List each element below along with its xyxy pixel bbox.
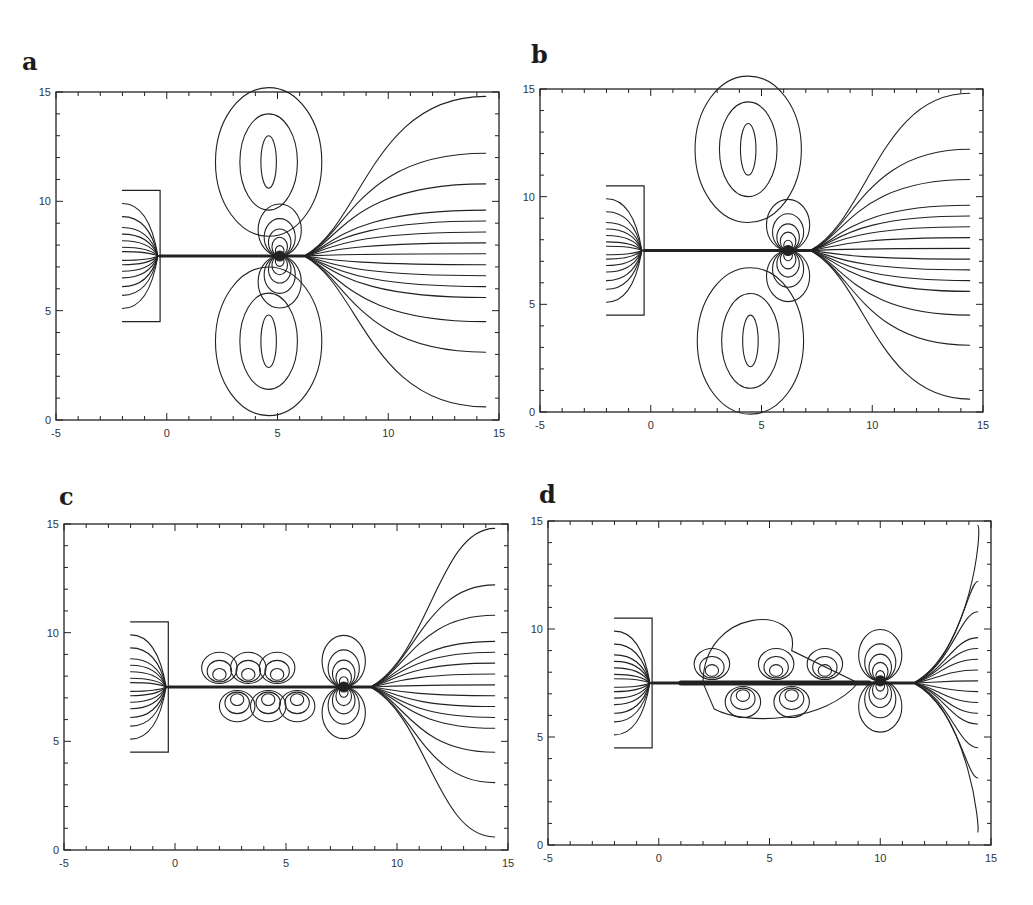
y-tick-label: 0 <box>53 844 59 856</box>
x-tick-label: 10 <box>391 857 403 869</box>
y-tick-label: 15 <box>39 86 51 98</box>
contour-plot-d: -5051015051015 <box>548 521 991 845</box>
x-tick-label: -5 <box>535 419 545 431</box>
x-tick-label: 10 <box>382 427 394 439</box>
x-tick-label: 10 <box>874 852 886 864</box>
x-tick-label: 5 <box>274 427 280 439</box>
y-tick-label: 15 <box>531 515 543 527</box>
x-tick-label: 15 <box>493 427 505 439</box>
y-tick-label: 15 <box>47 518 59 530</box>
y-tick-label: 10 <box>523 191 535 203</box>
x-tick-label: 5 <box>758 419 764 431</box>
contour-plot-a: -5051015051015 <box>56 92 499 420</box>
x-tick-label: 0 <box>164 427 170 439</box>
contour-plot-b: -5051015051015 <box>540 89 983 412</box>
x-tick-label: 15 <box>502 857 514 869</box>
x-tick-label: 0 <box>172 857 178 869</box>
panel-label-b: b <box>531 40 548 69</box>
x-tick-label: 5 <box>283 857 289 869</box>
y-tick-label: 15 <box>523 83 535 95</box>
y-tick-label: 5 <box>45 305 51 317</box>
y-tick-label: 0 <box>529 406 535 418</box>
y-tick-label: 0 <box>45 414 51 426</box>
y-tick-label: 5 <box>53 735 59 747</box>
x-tick-label: 5 <box>766 852 772 864</box>
x-tick-label: -5 <box>51 427 61 439</box>
x-tick-label: -5 <box>59 857 69 869</box>
contour-plot-c: -5051015051015 <box>64 524 508 850</box>
x-tick-label: 10 <box>866 419 878 431</box>
x-tick-label: 0 <box>656 852 662 864</box>
y-tick-label: 10 <box>39 195 51 207</box>
y-tick-label: 5 <box>529 298 535 310</box>
x-tick-label: -5 <box>543 852 553 864</box>
y-tick-label: 0 <box>537 839 543 851</box>
panel-label-d: d <box>539 480 556 509</box>
y-tick-label: 5 <box>537 731 543 743</box>
x-tick-label: 0 <box>648 419 654 431</box>
panel-label-a: a <box>22 47 38 76</box>
panel-label-c: c <box>59 482 74 511</box>
y-tick-label: 10 <box>531 623 543 635</box>
x-tick-label: 15 <box>985 852 997 864</box>
x-tick-label: 15 <box>977 419 989 431</box>
y-tick-label: 10 <box>47 627 59 639</box>
